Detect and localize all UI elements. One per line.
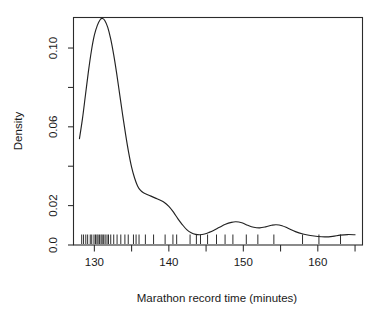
y-axis-ticks <box>68 48 74 245</box>
density-plot-figure: 0.00.020.060.10 130140150160 Marathon re… <box>0 0 378 321</box>
x-axis-ticks <box>94 245 355 252</box>
density-curve <box>79 18 355 237</box>
x-tick-label: 150 <box>234 256 253 268</box>
plot-border <box>74 18 363 246</box>
x-tick-label: 140 <box>159 256 178 268</box>
plot-frame <box>74 18 363 246</box>
x-tick-label: 130 <box>85 256 104 268</box>
y-axis-title: Density <box>12 112 24 151</box>
y-tick-label: 0.0 <box>47 237 59 253</box>
y-tick-label: 0.10 <box>47 37 59 59</box>
rug-plot <box>82 235 341 245</box>
x-axis-tick-labels: 130140150160 <box>85 256 328 268</box>
y-tick-label: 0.06 <box>47 116 59 138</box>
x-axis-title: Marathon record time (minutes) <box>137 292 298 304</box>
y-tick-label: 0.02 <box>47 194 59 216</box>
plot-canvas: 0.00.020.060.10 130140150160 Marathon re… <box>0 0 378 321</box>
x-tick-label: 160 <box>308 256 327 268</box>
y-axis-tick-labels: 0.00.020.060.10 <box>47 37 59 253</box>
